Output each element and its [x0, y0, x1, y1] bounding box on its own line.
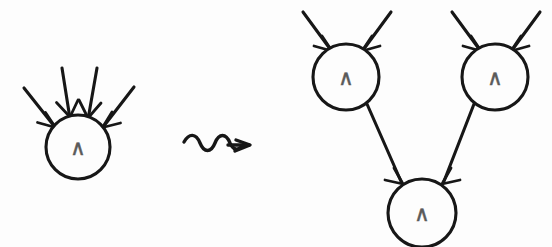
rhs-input-arrow-4: [511, 12, 540, 51]
rhs-input-arrow-2: [362, 12, 391, 51]
lhs-and-node-label: ∧: [70, 136, 85, 160]
lhs-input-arrow-1: [24, 88, 56, 128]
lhs-group: ∧: [24, 68, 134, 179]
rhs-and-node-bottom: ∧: [388, 179, 456, 247]
rhs-and-node-upper-right: ∧: [462, 44, 528, 110]
diagram-canvas: ∧: [0, 0, 552, 247]
rhs-upper-right-label: ∧: [487, 66, 502, 90]
rhs-upper-left-label: ∧: [338, 66, 353, 90]
rewrite-rule-figure: ∧: [0, 0, 552, 247]
lhs-input-arrow-2: [57, 68, 79, 117]
rhs-input-arrow-1: [303, 12, 332, 51]
lhs-input-arrow-3: [79, 68, 101, 118]
rhs-and-node-upper-left: ∧: [313, 44, 379, 110]
rhs-input-arrow-3: [452, 12, 481, 51]
rhs-group: ∧ ∧ ∧: [303, 12, 540, 247]
rhs-bottom-label: ∧: [414, 202, 429, 226]
rhs-internal-edge-left: [367, 104, 403, 184]
rhs-internal-edge-right: [442, 104, 474, 184]
lhs-and-node: ∧: [46, 115, 110, 179]
squiggly-rewrites-to-arrow: [184, 135, 250, 151]
lhs-input-arrow-4: [103, 87, 135, 128]
